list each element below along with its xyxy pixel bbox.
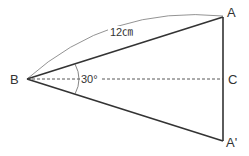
label-A-prime: A' <box>226 135 237 150</box>
label-B: B <box>10 72 19 87</box>
label-C: C <box>228 72 237 87</box>
diagram-canvas: A B C A' 12㎝ 30° <box>0 0 249 156</box>
triangle-diagram: A B C A' 12㎝ 30° <box>0 0 249 156</box>
length-label: 12㎝ <box>110 26 133 38</box>
angle-label: 30° <box>81 73 98 85</box>
label-A: A <box>227 5 236 20</box>
side-BA-prime <box>27 79 223 141</box>
